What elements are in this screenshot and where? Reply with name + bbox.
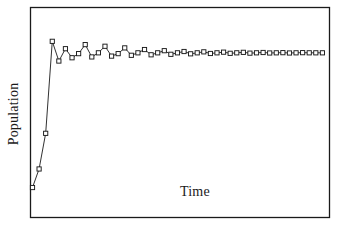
- data-point-marker: [202, 50, 206, 54]
- data-point-marker: [175, 51, 179, 55]
- data-point-marker: [129, 53, 133, 57]
- chart-background: [0, 0, 346, 235]
- data-point-marker: [268, 51, 272, 55]
- data-point-marker: [149, 53, 153, 57]
- data-point-marker: [83, 43, 87, 47]
- data-point-marker: [314, 51, 318, 55]
- data-point-marker: [156, 51, 160, 55]
- data-point-marker: [281, 51, 285, 55]
- data-point-marker: [254, 51, 258, 55]
- data-point-marker: [90, 55, 94, 59]
- data-point-marker: [96, 51, 100, 55]
- data-point-marker: [228, 51, 232, 55]
- data-point-marker: [77, 52, 81, 56]
- data-point-marker: [37, 167, 41, 171]
- data-point-marker: [274, 51, 278, 55]
- data-point-marker: [162, 49, 166, 53]
- data-point-marker: [287, 51, 291, 55]
- data-point-marker: [294, 51, 298, 55]
- data-point-marker: [30, 185, 34, 189]
- data-point-marker: [189, 52, 193, 56]
- data-point-marker: [116, 52, 120, 56]
- data-point-marker: [261, 50, 265, 54]
- data-point-marker: [109, 54, 113, 58]
- data-point-marker: [235, 51, 239, 55]
- data-point-marker: [50, 39, 54, 43]
- data-point-marker: [136, 51, 140, 55]
- data-point-marker: [301, 51, 305, 55]
- chart-plot-area: [0, 0, 346, 235]
- data-point-marker: [103, 44, 107, 48]
- y-axis-label: Population: [6, 74, 22, 154]
- data-point-marker: [44, 131, 48, 135]
- data-point-marker: [142, 47, 146, 51]
- data-point-marker: [307, 51, 311, 55]
- data-point-marker: [241, 50, 245, 54]
- x-axis-label: Time: [180, 184, 210, 200]
- data-point-marker: [208, 51, 212, 55]
- data-point-marker: [248, 51, 252, 55]
- data-point-marker: [182, 49, 186, 53]
- data-point-marker: [57, 59, 61, 63]
- data-point-marker: [169, 52, 173, 56]
- data-point-marker: [63, 47, 67, 51]
- data-point-marker: [123, 46, 127, 50]
- data-point-marker: [221, 50, 225, 54]
- data-point-marker: [320, 51, 324, 55]
- data-point-marker: [195, 51, 199, 55]
- data-point-marker: [215, 51, 219, 55]
- population-growth-chart: Population Time: [0, 0, 346, 235]
- data-point-marker: [70, 56, 74, 60]
